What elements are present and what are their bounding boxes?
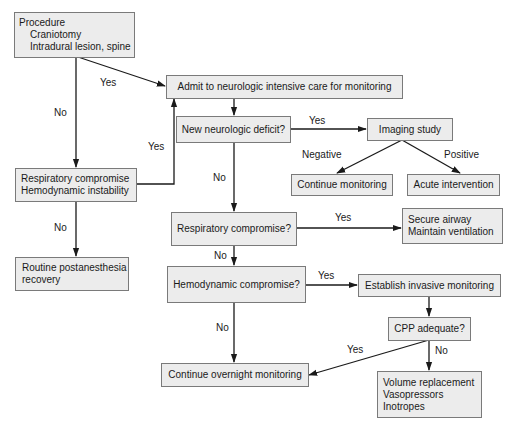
node-resp-compromise: Respiratory compromise?	[171, 212, 297, 246]
label-hemo-no: No	[216, 322, 229, 334]
routine-line-1: Routine postanesthesia	[22, 262, 122, 274]
label-hemo-yes: Yes	[318, 270, 334, 282]
procedure-spine: Intradural lesion, spine	[19, 41, 130, 53]
label-resp-yes: Yes	[335, 212, 351, 224]
node-routine-recovery: Routine postanesthesia recovery	[15, 257, 129, 291]
continue-monitoring-text: Continue monitoring	[297, 179, 387, 191]
node-secure-airway: Secure airway Maintain ventilation	[402, 208, 503, 244]
node-new-deficit: New neurologic deficit?	[176, 116, 291, 143]
label-cpp-no: No	[435, 345, 448, 357]
node-resp-hemo-instability: Respiratory compromise Hemodynamic insta…	[15, 168, 137, 202]
instability-line-2: Hemodynamic instability	[21, 185, 131, 197]
label-imaging-negative: Negative	[302, 149, 341, 161]
label-instability-yes: Yes	[148, 141, 164, 153]
edge-imaging-to-continue	[337, 140, 402, 173]
node-admit: Admit to neurologic intensive care for m…	[166, 75, 403, 99]
node-cpp-adequate: CPP adequate?	[388, 317, 471, 341]
instability-line-1: Respiratory compromise	[21, 173, 131, 185]
overnight-monitoring-text: Continue overnight monitoring	[168, 369, 301, 381]
label-deficit-yes: Yes	[309, 115, 325, 127]
node-overnight-monitoring: Continue overnight monitoring	[161, 363, 309, 387]
imaging-text: Imaging study	[379, 124, 441, 136]
node-continue-monitoring: Continue monitoring	[291, 174, 393, 196]
edge-cpp-to-overnight	[309, 340, 429, 375]
acute-intervention-text: Acute intervention	[413, 179, 493, 191]
volume-line-2: Vasopressors	[383, 389, 476, 401]
volume-line-3: Inotropes	[383, 401, 476, 413]
label-cpp-yes: Yes	[347, 344, 363, 356]
procedure-title: Procedure	[19, 17, 130, 29]
label-resp-no: No	[214, 250, 227, 262]
node-imaging-study: Imaging study	[367, 118, 453, 141]
routine-line-2: recovery	[22, 274, 122, 286]
node-volume-replacement: Volume replacement Vasopressors Inotrope…	[377, 371, 482, 418]
label-imaging-positive: Positive	[444, 149, 479, 161]
label-procedure-yes: Yes	[100, 77, 116, 89]
label-deficit-no: No	[213, 172, 226, 184]
node-procedure: Procedure Craniotomy Intradural lesion, …	[14, 12, 135, 58]
hemo-compromise-text: Hemodynamic compromise?	[173, 279, 300, 291]
procedure-craniotomy: Craniotomy	[19, 29, 130, 41]
invasive-monitoring-text: Establish invasive monitoring	[365, 280, 494, 292]
node-hemo-compromise: Hemodynamic compromise?	[167, 266, 306, 303]
label-procedure-no: No	[54, 107, 67, 119]
admit-text: Admit to neurologic intensive care for m…	[178, 81, 392, 93]
airway-line-2: Maintain ventilation	[408, 226, 497, 238]
edge-procedure-to-admit	[78, 57, 165, 86]
cpp-adequate-text: CPP adequate?	[394, 323, 464, 335]
airway-line-1: Secure airway	[408, 214, 497, 226]
volume-line-1: Volume replacement	[383, 377, 476, 389]
node-invasive-monitoring: Establish invasive monitoring	[358, 274, 501, 297]
label-instability-no: No	[54, 222, 67, 234]
node-acute-intervention: Acute intervention	[407, 174, 500, 196]
new-deficit-text: New neurologic deficit?	[182, 124, 285, 136]
resp-compromise-text: Respiratory compromise?	[177, 223, 291, 235]
